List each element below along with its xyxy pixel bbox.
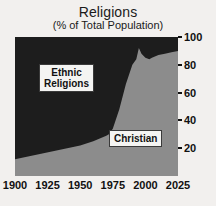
y-tick-mark (178, 36, 182, 38)
y-tick-label: 80 (184, 59, 196, 71)
religions-area-chart: Religions (% of Total Population) 204060… (0, 0, 216, 206)
x-axis-tick-2025: 2025 (166, 179, 190, 191)
y-axis: 20406080100 (178, 37, 216, 176)
y-tick-label: 40 (184, 114, 196, 126)
y-tick-label: 100 (184, 31, 202, 43)
x-axis-tick-1900: 1900 (3, 179, 27, 191)
plot-svg (15, 37, 178, 176)
y-tick-label: 60 (184, 87, 196, 99)
y-tick-mark (178, 119, 182, 121)
series-label-christian: Christian (109, 130, 162, 147)
chart-title: Religions (0, 4, 216, 20)
x-axis-tick-1975: 1975 (101, 179, 125, 191)
x-axis-tick-2000: 2000 (133, 179, 157, 191)
x-axis: 190019251950197520002025 (0, 179, 216, 199)
y-tick-label: 20 (184, 142, 196, 154)
y-axis-tick-100: 100 (178, 31, 202, 43)
series-label-ethnic-religions: Ethnic Religions (39, 64, 94, 92)
y-axis-tick-20: 20 (178, 142, 196, 154)
y-tick-mark (178, 92, 182, 94)
plot-area (15, 37, 178, 176)
y-tick-mark (178, 147, 182, 149)
x-axis-tick-1950: 1950 (68, 179, 92, 191)
y-axis-tick-80: 80 (178, 59, 196, 71)
x-axis-tick-1925: 1925 (35, 179, 59, 191)
y-axis-tick-60: 60 (178, 87, 196, 99)
y-axis-tick-40: 40 (178, 114, 196, 126)
chart-subtitle: (% of Total Population) (0, 19, 216, 31)
y-tick-mark (178, 64, 182, 66)
